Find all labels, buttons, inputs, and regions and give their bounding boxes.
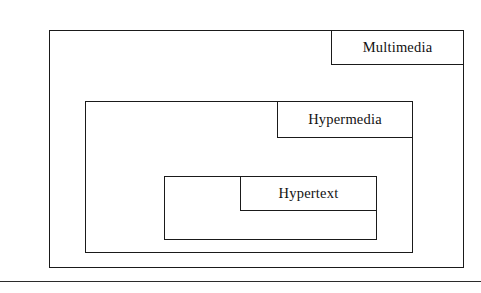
label-text-hypertext: Hypertext — [279, 186, 339, 202]
label-text-multimedia: Multimedia — [363, 40, 433, 56]
label-tab-hypertext: Hypertext — [240, 176, 377, 211]
label-tab-multimedia: Multimedia — [331, 30, 464, 65]
label-tab-hypermedia: Hypermedia — [277, 101, 413, 138]
label-text-hypermedia: Hypermedia — [308, 112, 382, 128]
page-horizontal-rule — [0, 281, 481, 282]
diagram-canvas: Multimedia Hypermedia Hypertext — [0, 0, 481, 293]
